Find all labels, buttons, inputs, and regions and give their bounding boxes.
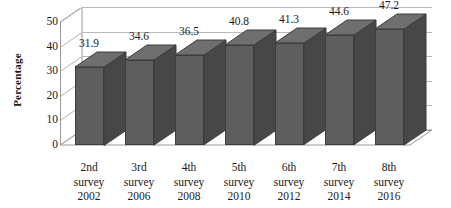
bar-side-top-faces	[375, 14, 428, 147]
y-axis-tick-labels: 01020304050	[28, 0, 58, 160]
x-axis-label-1: 2ndsurvey2002	[61, 160, 117, 204]
y-axis-title-label: Percentage	[11, 53, 23, 107]
x-axis-label-line: survey	[161, 175, 217, 190]
x-axis-label-line: 2010	[211, 189, 267, 204]
bar-3	[175, 55, 204, 145]
y-axis-tick-30: 30	[28, 65, 58, 77]
x-axis-label-2: 3rdsurvey2006	[111, 160, 167, 204]
bar-value-label-5: 41.3	[269, 13, 310, 25]
x-axis-label-line: 2008	[161, 189, 217, 204]
x-axis-label-5: 6thsurvey2012	[261, 160, 317, 204]
bar-side-top-faces	[125, 45, 178, 147]
y-axis-tick-10: 10	[28, 115, 58, 127]
x-axis-label-4: 5thsurvey2010	[211, 160, 267, 204]
x-axis-label-line: 6th	[261, 160, 317, 175]
bar-value-label-4: 40.8	[219, 15, 260, 27]
y-axis-title: Percentage	[6, 0, 28, 160]
bar-value-label-2: 34.6	[119, 30, 160, 42]
x-axis-label-line: survey	[261, 175, 317, 190]
x-axis-label-line: 4th	[161, 160, 217, 175]
y-axis-tick-50: 50	[28, 16, 58, 28]
y-axis-tick-0: 0	[28, 139, 58, 151]
x-axis-label-line: survey	[111, 175, 167, 190]
bar-side-face	[154, 45, 176, 145]
x-axis-label-line: 2016	[361, 189, 417, 204]
bar-side-top-faces	[75, 52, 128, 147]
bar-6	[325, 35, 354, 145]
x-axis-category-labels: 2ndsurvey20023rdsurvey20064thsurvey20085…	[0, 160, 451, 208]
bar-4	[225, 45, 254, 145]
x-axis-label-line: survey	[311, 175, 367, 190]
x-axis-label-line: 2006	[111, 189, 167, 204]
x-axis-label-6: 7thsurvey2014	[311, 160, 367, 204]
bar-side-top-faces	[175, 40, 228, 147]
y-axis-tick-20: 20	[28, 90, 58, 102]
x-axis-label-line: 2002	[61, 189, 117, 204]
bar-side-top-faces	[275, 28, 328, 147]
bar-5	[275, 43, 304, 145]
bar-7	[375, 29, 404, 145]
bar-side-face	[254, 30, 276, 145]
bar-side-face	[304, 28, 326, 145]
x-axis-label-7: 8thsurvey2016	[361, 160, 417, 204]
x-axis-label-line: survey	[61, 175, 117, 190]
bar-value-label-1: 31.9	[69, 37, 110, 49]
bar-side-face	[404, 14, 426, 145]
bar-side-top-faces	[325, 20, 378, 147]
y-axis-tick-40: 40	[28, 41, 58, 53]
bar-side-top-faces	[225, 30, 278, 147]
survey-percentage-chart: Percentage 01020304050 31.934.636.540.84…	[0, 0, 451, 208]
x-axis-label-line: 2014	[311, 189, 367, 204]
plot-area: 31.934.636.540.841.344.647.2	[60, 8, 438, 160]
x-axis-label-line: survey	[361, 175, 417, 190]
bar-series: 31.934.636.540.841.344.647.2	[60, 8, 438, 160]
bar-1	[75, 67, 104, 145]
bar-side-face	[354, 20, 376, 145]
bar-value-label-3: 36.5	[169, 25, 210, 37]
bar-value-label-7: 47.2	[369, 0, 410, 11]
x-axis-label-line: 2012	[261, 189, 317, 204]
x-axis-label-line: 3rd	[111, 160, 167, 175]
x-axis-label-3: 4thsurvey2008	[161, 160, 217, 204]
x-axis-label-line: survey	[211, 175, 267, 190]
bar-side-face	[104, 52, 126, 145]
bar-side-face	[204, 40, 226, 145]
x-axis-label-line: 2nd	[61, 160, 117, 175]
x-axis-label-line: 5th	[211, 160, 267, 175]
x-axis-label-line: 8th	[361, 160, 417, 175]
x-axis-label-line: 7th	[311, 160, 367, 175]
bar-2	[125, 60, 154, 145]
bar-value-label-6: 44.6	[319, 5, 360, 17]
